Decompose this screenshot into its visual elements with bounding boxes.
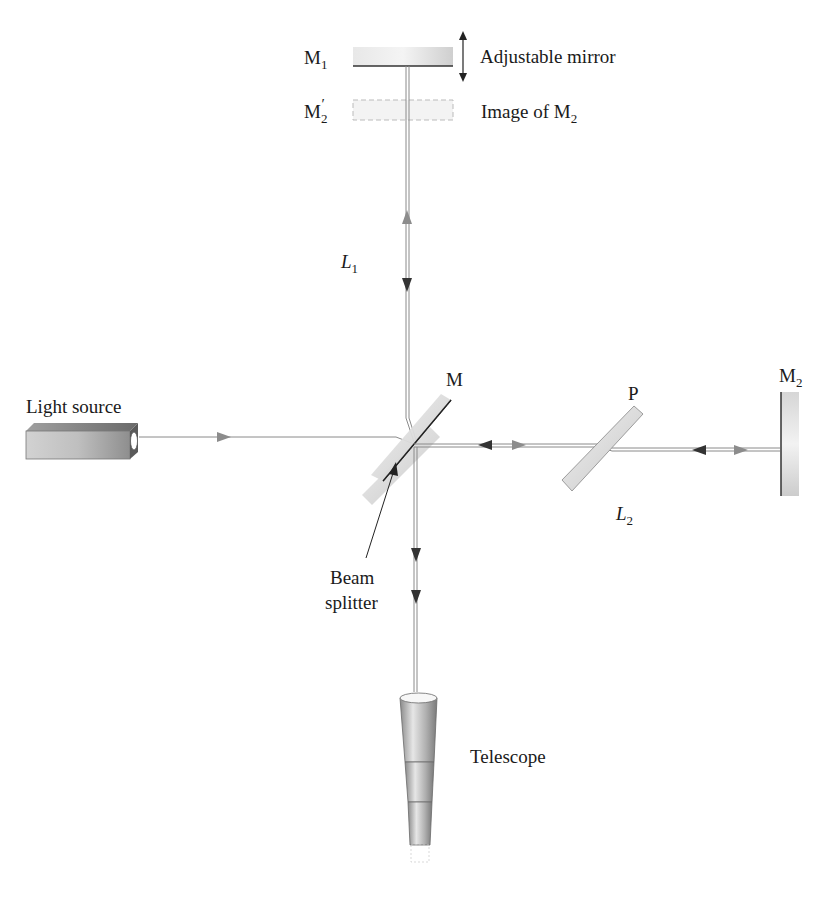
image-of-m2-virtual-mirror xyxy=(353,100,453,120)
michelson-interferometer-diagram: M1 Adjustable mirror M2′ Image of M2 L1 … xyxy=(0,0,830,897)
label-beam-splitter-line1: Beam xyxy=(330,567,375,588)
label-adjustable-mirror: Adjustable mirror xyxy=(480,46,616,67)
label-m1: M1 xyxy=(304,47,327,72)
label-l2: L2 xyxy=(615,503,633,528)
arrow-down-icon xyxy=(411,590,421,604)
arrow-down-icon xyxy=(411,548,421,562)
incoming-beam xyxy=(139,437,414,444)
arrow-left-icon xyxy=(478,440,492,450)
label-p: P xyxy=(628,383,639,404)
arrow-right-icon xyxy=(734,445,748,455)
label-beam-splitter-line2: splitter xyxy=(325,592,378,613)
telescope xyxy=(400,693,437,862)
label-m2-prime: M2′ xyxy=(304,96,327,126)
label-light-source: Light source xyxy=(26,396,122,417)
fixed-mirror-m2 xyxy=(781,392,799,496)
adjustable-mirror-m1 xyxy=(353,47,453,66)
label-image-of-m2: Image of M2 xyxy=(481,101,577,126)
arrow-right-icon xyxy=(512,440,526,450)
arrow-up-icon xyxy=(402,210,412,224)
label-m: M xyxy=(446,369,463,390)
adjust-double-arrow-icon xyxy=(459,31,467,82)
label-m2: M2 xyxy=(779,365,802,390)
label-telescope: Telescope xyxy=(470,746,546,767)
arrow-right-icon xyxy=(217,432,231,442)
arrow-left-icon xyxy=(692,445,706,455)
arrow-down-icon xyxy=(402,278,412,292)
light-source xyxy=(26,423,138,459)
beam-splitter-m xyxy=(362,394,452,510)
beam-arm-l1 xyxy=(406,66,416,442)
label-l1: L1 xyxy=(340,251,358,276)
